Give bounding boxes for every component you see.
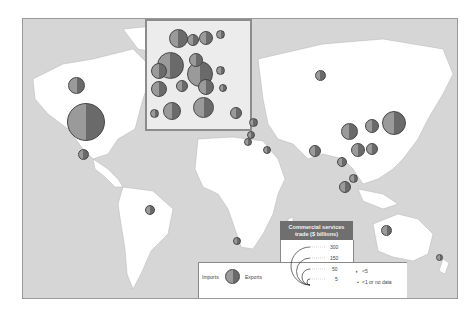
symbol-israel <box>247 131 255 139</box>
symbol-canada <box>68 77 85 94</box>
symbol-egypt <box>244 138 252 146</box>
symbol-saudi <box>263 146 271 154</box>
legend-symbol <box>225 269 240 284</box>
symbol-japan <box>382 111 406 135</box>
symbol-australia <box>381 225 392 236</box>
symbol-india <box>309 145 321 157</box>
symbol-malaysia <box>349 174 358 183</box>
symbol-finland <box>216 30 225 39</box>
symbol-italy <box>193 97 214 118</box>
symbol-uk <box>169 29 188 48</box>
symbol-singapore <box>339 181 351 193</box>
symbol-mexico <box>78 149 89 160</box>
symbol-switzerland <box>176 80 188 92</box>
legend-imports-label: Imports <box>202 274 219 280</box>
nodata-label: <1 or no data <box>362 279 392 285</box>
legend-scale-arcs <box>290 245 330 290</box>
scale-300: 300 <box>330 244 338 250</box>
symbol-taiwan <box>366 143 378 155</box>
symbol-norway <box>187 34 199 46</box>
symbol-ireland <box>151 81 167 97</box>
symbol-denmark <box>216 66 225 75</box>
symbol-turkey <box>249 118 258 127</box>
small-symbol-icon: ◖ <box>355 268 358 274</box>
symbol-russia <box>315 70 326 81</box>
legend-title: Commercial services trade ($ billions) <box>280 221 353 241</box>
symbol-newzealand <box>436 254 443 261</box>
world-map <box>22 18 458 299</box>
legend-title-line1: Commercial services <box>280 224 353 231</box>
scale-50: 50 <box>332 266 338 272</box>
symbol-china <box>341 123 358 140</box>
symbol-hongkong <box>351 143 365 157</box>
symbol-portugal <box>150 109 159 118</box>
nodata-dot-icon: • <box>357 279 359 285</box>
symbol-southafrica <box>233 237 241 245</box>
symbol-belgium <box>151 63 167 79</box>
symbol-sweden <box>199 31 213 45</box>
symbol-greece <box>230 107 242 119</box>
symbol-spain <box>163 102 181 120</box>
scale-150: 150 <box>330 255 338 261</box>
symbol-korea <box>365 119 379 133</box>
symbol-netherlands <box>189 53 203 67</box>
symbol-poland <box>219 84 227 92</box>
legend-title-line2: trade ($ billions) <box>280 231 353 238</box>
symbol-austria <box>198 79 214 95</box>
symbol-thailand <box>337 157 347 167</box>
symbol-usa <box>67 103 105 141</box>
small-symbol-label: <5 <box>362 268 368 274</box>
symbol-brazil <box>145 205 155 215</box>
legend-exports-label: Exports <box>245 274 262 280</box>
scale-5: 5 <box>335 276 338 282</box>
